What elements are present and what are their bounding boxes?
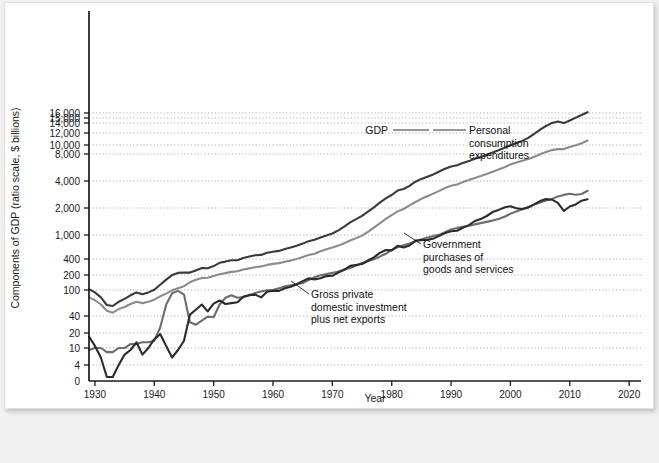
gridlines (89, 113, 641, 365)
y-tick-label: 10 (69, 343, 81, 354)
y-tick-label: 10,000 (49, 140, 80, 151)
y-tick-label: 20 (69, 328, 81, 339)
y-tick-label: 400 (63, 254, 80, 265)
annotation-line: plus net exports (311, 313, 385, 325)
y-tick-label: 4 (74, 360, 80, 371)
x-tick-label: 1950 (203, 389, 226, 400)
annotation-line: purchases of (423, 251, 483, 263)
y-tick-labels: 041020401002004001,0002,0004,0008,00010,… (49, 108, 80, 387)
annotation-line: GDP (365, 124, 388, 136)
x-axis-title: Year (364, 392, 386, 404)
annotation-line: Government (423, 238, 481, 250)
x-tick-label: 1940 (143, 389, 166, 400)
annotation-line: consumption (469, 137, 529, 149)
page-root: 041020401002004001,0002,0004,0008,00010,… (0, 0, 659, 463)
y-tick-label: 200 (63, 270, 80, 281)
y-axis-title: Components of GDP (ratio scale, $ billio… (9, 107, 21, 308)
x-tick-labels: 1930194019501960197019801990200020102020 (84, 389, 641, 400)
annotation-investment: Gross privatedomestic investmentplus net… (311, 288, 407, 325)
gdp-components-line-chart: 041020401002004001,0002,0004,0008,00010,… (5, 3, 653, 408)
y-tick-label: 16,000 (49, 108, 80, 119)
annotation-line: expenditures (469, 149, 529, 161)
y-tick-label: 4,000 (55, 176, 80, 187)
y-tick-label: 1,000 (55, 230, 80, 241)
annotation-government: Governmentpurchases ofgoods and services (423, 238, 513, 275)
y-tick-label: 40 (69, 311, 81, 322)
x-tick-label: 2010 (559, 389, 582, 400)
x-tick-label: 1970 (321, 389, 344, 400)
annotation-line: goods and services (423, 263, 513, 275)
x-tick-label: 2000 (499, 389, 522, 400)
annotation-line: Personal (469, 124, 510, 136)
y-tick-label: 0 (74, 376, 80, 387)
series-line-personal-consumption-expenditures (89, 141, 588, 313)
x-tick-label: 1930 (84, 389, 107, 400)
y-tick-label: 12,000 (49, 128, 80, 139)
annotation-gdp: GDP (365, 124, 388, 136)
chart-card: 041020401002004001,0002,0004,0008,00010,… (4, 2, 654, 409)
x-tick-label: 2020 (618, 389, 641, 400)
y-tick-label: 100 (63, 285, 80, 296)
x-tick-label: 1990 (440, 389, 463, 400)
x-tick-label: 1960 (262, 389, 285, 400)
annotation-personal-consumption: Personalconsumptionexpenditures (469, 124, 529, 161)
series-annotations: GDPPersonalconsumptionexpendituresGovern… (291, 124, 529, 325)
y-tick-label: 2,000 (55, 203, 80, 214)
annotation-line: Gross private (311, 288, 374, 300)
annotation-line: domestic investment (311, 301, 407, 313)
